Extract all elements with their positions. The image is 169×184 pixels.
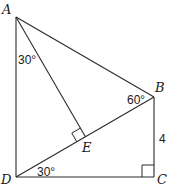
right-angle-marker-c bbox=[142, 165, 154, 177]
segment-ba bbox=[16, 17, 154, 97]
angle-label-abd: 60° bbox=[127, 93, 145, 107]
right-angle-marker-e bbox=[72, 128, 81, 142]
length-label-bc: 4 bbox=[159, 132, 166, 146]
segment-ae bbox=[16, 17, 85, 137]
angle-label-dae: 30° bbox=[18, 53, 36, 67]
point-label-e: E bbox=[81, 140, 92, 155]
point-label-d: D bbox=[0, 172, 12, 184]
point-label-c: C bbox=[157, 172, 167, 184]
point-label-b: B bbox=[154, 80, 165, 95]
geometry-diagram: A B C D E 30° 60° 30° 4 bbox=[0, 0, 169, 184]
point-label-a: A bbox=[1, 2, 11, 17]
angle-label-bdc: 30° bbox=[37, 165, 55, 179]
